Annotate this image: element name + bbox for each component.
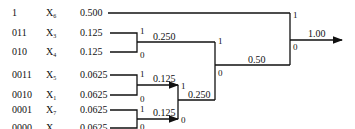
code: 0000 <box>12 123 32 129</box>
bit-root-top: 1 <box>293 10 298 20</box>
probability: 0.0625 <box>80 90 108 100</box>
bit-half-bottom: 0 <box>218 68 223 78</box>
code: 011 <box>12 28 27 38</box>
edge-root <box>290 13 342 65</box>
node-half-value: 0.50 <box>248 55 266 65</box>
node-root-value: 1.00 <box>308 29 326 39</box>
bit-half-top: 1 <box>218 36 223 46</box>
symbol: X7 <box>46 105 56 118</box>
node-n5172-value: 0.250 <box>188 90 211 100</box>
edge-x5-x1 <box>110 75 137 95</box>
bit-n72-top: 1 <box>140 104 145 114</box>
edge-x3 <box>110 33 137 52</box>
code: 0001 <box>12 105 32 115</box>
bit-n5172-bottom: 0 <box>181 115 186 125</box>
code: 0011 <box>12 70 32 80</box>
code: 0010 <box>12 90 32 100</box>
symbol: X3 <box>46 28 56 41</box>
edge-x7-x2 <box>110 110 137 128</box>
probability: 0.125 <box>80 28 103 38</box>
probability: 0.0625 <box>80 123 108 129</box>
symbol: X5 <box>46 70 56 83</box>
symbol: X4 <box>46 47 56 60</box>
symbol: X2 <box>46 123 56 129</box>
probability: 0.0625 <box>80 105 108 115</box>
symbol: X6 <box>46 8 56 21</box>
probability: 0.125 <box>80 47 103 57</box>
node-n72-value: 0.125 <box>153 108 176 118</box>
probability: 0.500 <box>80 8 103 18</box>
node-n34-value: 0.250 <box>153 32 176 42</box>
bit-n34-top: 1 <box>140 26 145 36</box>
bit-n51-bottom: 0 <box>140 94 145 104</box>
bit-n34-bottom: 0 <box>140 50 145 60</box>
bit-n72-bottom: 0 <box>140 122 145 129</box>
code: 1 <box>12 8 17 18</box>
bit-n5172-top: 1 <box>181 81 186 91</box>
bit-root-bottom: 0 <box>293 42 298 52</box>
node-n51-value: 0.125 <box>153 74 176 84</box>
probability: 0.0625 <box>80 70 108 80</box>
code: 010 <box>12 47 27 57</box>
edge-half <box>215 42 290 100</box>
symbol: X1 <box>46 90 56 103</box>
bit-n51-top: 1 <box>140 69 145 79</box>
